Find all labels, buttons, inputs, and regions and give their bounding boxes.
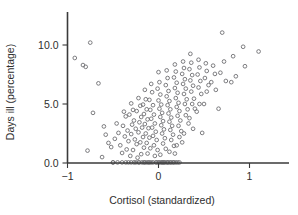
data-point [151, 134, 155, 138]
data-point [73, 56, 77, 60]
data-point [224, 79, 228, 83]
data-point [169, 138, 173, 142]
data-point [149, 82, 153, 86]
data-point [222, 60, 226, 64]
data-point [146, 117, 150, 121]
data-point [157, 99, 161, 103]
axes-layer [68, 12, 290, 163]
data-point [142, 146, 146, 150]
data-point [137, 96, 141, 100]
data-point [143, 122, 147, 126]
data-point [176, 91, 180, 95]
x-tick-label: −1 [62, 170, 74, 182]
data-point [165, 69, 169, 73]
data-point [189, 79, 193, 83]
scatter-plot-figure: 0.05.010.0 −101 Cortisol (standardized) … [0, 0, 298, 215]
data-point [100, 155, 104, 159]
data-point [156, 87, 160, 91]
data-point [135, 142, 139, 146]
data-point [178, 119, 182, 123]
data-point [148, 108, 152, 112]
data-point [140, 126, 144, 130]
data-point [174, 70, 178, 74]
data-point [152, 113, 156, 117]
x-tick-label: 0 [156, 170, 162, 182]
data-point [121, 124, 125, 128]
data-point [117, 131, 121, 135]
data-point [148, 146, 152, 150]
data-point [199, 92, 203, 96]
data-point [168, 128, 172, 132]
data-point [168, 107, 172, 111]
data-point [190, 102, 194, 106]
data-point [199, 79, 203, 83]
data-point [128, 113, 132, 117]
data-point [163, 136, 167, 140]
data-point [138, 120, 142, 124]
data-point [131, 148, 135, 152]
data-point [150, 126, 154, 130]
data-point [107, 141, 111, 145]
data-point [184, 113, 188, 117]
y-tick-label: 10.0 [38, 39, 59, 51]
data-point [130, 123, 134, 127]
data-point [166, 76, 170, 80]
data-point [213, 72, 217, 76]
data-point [142, 112, 146, 116]
data-point [152, 143, 156, 147]
data-point [171, 133, 175, 137]
data-point [169, 116, 173, 120]
data-point [123, 135, 127, 139]
data-point [189, 90, 193, 94]
data-point [166, 103, 170, 107]
data-point [191, 127, 195, 131]
data-point [127, 139, 131, 143]
data-point [176, 114, 180, 118]
data-point [109, 145, 113, 149]
data-point [168, 150, 172, 154]
data-point [220, 31, 224, 35]
data-point [177, 124, 181, 128]
data-point [188, 116, 192, 120]
data-point [214, 88, 218, 92]
data-point [88, 41, 92, 45]
data-point [160, 111, 164, 115]
data-point [243, 64, 247, 68]
data-point [136, 156, 140, 160]
data-point [181, 60, 185, 64]
data-point [217, 107, 221, 111]
data-point [129, 102, 133, 106]
data-point [234, 74, 238, 78]
data-point [192, 97, 196, 101]
data-point [187, 122, 191, 126]
data-point [113, 137, 117, 141]
data-point [144, 132, 148, 136]
data-point [182, 132, 186, 136]
data-point [164, 147, 168, 151]
data-point [257, 50, 261, 54]
data-point [162, 128, 166, 132]
data-point [205, 69, 209, 73]
data-point [104, 133, 108, 137]
data-point [151, 103, 155, 107]
data-point [181, 82, 185, 86]
data-point [124, 115, 128, 119]
data-point [241, 45, 245, 49]
data-point [178, 135, 182, 139]
data-point [143, 88, 147, 92]
data-point [145, 141, 149, 145]
data-point [188, 67, 192, 71]
data-point [97, 82, 101, 86]
data-point [159, 103, 163, 107]
data-point [153, 154, 157, 158]
data-point [197, 58, 201, 62]
data-point [122, 110, 126, 114]
data-point [205, 90, 209, 94]
data-point [125, 148, 129, 152]
data-point [167, 89, 171, 93]
data-point [138, 141, 142, 145]
data-point [126, 129, 130, 133]
data-point [219, 71, 223, 75]
data-point [190, 73, 194, 77]
data-point [189, 52, 193, 56]
